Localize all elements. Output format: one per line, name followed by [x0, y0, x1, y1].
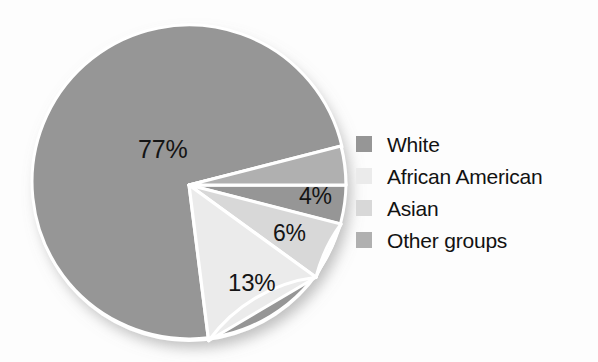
pie-label-other-groups: 4%: [299, 185, 332, 208]
legend-item-white: White: [356, 128, 594, 160]
legend-label-white: White: [387, 134, 440, 155]
legend-item-african-american: African American: [356, 160, 594, 192]
legend-swatch-asian-icon: [356, 200, 372, 216]
legend-label-african-american: African American: [387, 166, 543, 187]
legend-label-asian: Asian: [387, 198, 439, 219]
pie-label-asian: 6%: [273, 222, 306, 245]
chart-legend: White African American Asian Other group…: [356, 128, 594, 256]
pie-svg: [0, 0, 380, 362]
pie-chart-graphic: 77% 4% 6% 13%: [0, 0, 380, 362]
legend-item-asian: Asian: [356, 192, 594, 224]
pie-chart-figure: 77% 4% 6% 13% White African American Asi…: [0, 0, 598, 362]
legend-label-other-groups: Other groups: [387, 230, 507, 251]
pie-label-white: 77%: [138, 137, 187, 162]
legend-swatch-african-american-icon: [356, 168, 372, 184]
legend-swatch-other-groups-icon: [356, 232, 372, 248]
legend-swatch-white-icon: [356, 136, 372, 152]
legend-item-other-groups: Other groups: [356, 224, 594, 256]
pie-label-african-american: 13%: [228, 271, 275, 295]
